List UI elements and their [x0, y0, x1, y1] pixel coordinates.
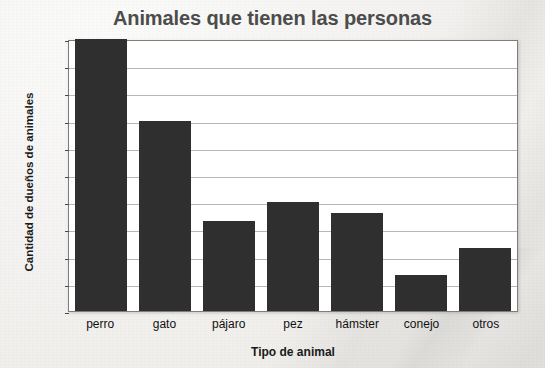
x-axis-tick-label: gato — [132, 317, 196, 331]
bar — [267, 202, 318, 311]
x-axis-tick-labels: perrogatopájaropezhámsterconejootros — [68, 317, 518, 331]
bar-slot — [453, 41, 517, 311]
bar-slot — [389, 41, 453, 311]
bar — [203, 221, 254, 311]
bar-series — [69, 41, 517, 311]
bar — [459, 248, 510, 311]
chart-page: Animales que tienen las personas Cantida… — [0, 0, 545, 368]
y-axis-tick-mark — [65, 313, 69, 314]
x-axis-tick-label: perro — [68, 317, 132, 331]
y-axis-title: Cantidad de dueños de animales — [23, 42, 35, 322]
bar-slot — [325, 41, 389, 311]
x-axis-tick-label: pez — [261, 317, 325, 331]
bar-slot — [133, 41, 197, 311]
bar-slot — [197, 41, 261, 311]
x-axis-tick-label: pájaro — [197, 317, 261, 331]
bar-slot — [261, 41, 325, 311]
bar — [75, 39, 126, 311]
bar — [395, 275, 446, 311]
page-title: Animales que tienen las personas — [0, 7, 545, 30]
x-axis-tick-label: conejo — [389, 317, 453, 331]
x-axis-title: Tipo de animal — [68, 345, 518, 359]
x-axis-tick-label: hámster — [325, 317, 389, 331]
bar-slot — [69, 41, 133, 311]
plot-area — [68, 40, 518, 312]
bar — [331, 213, 382, 311]
x-axis-tick-label: otros — [454, 317, 518, 331]
bar — [139, 121, 190, 311]
